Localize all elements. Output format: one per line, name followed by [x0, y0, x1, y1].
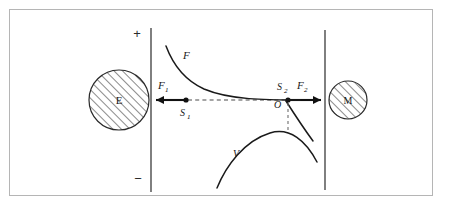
svg-text:2: 2 — [284, 87, 288, 95]
diagram-canvas: + − E M F V O F 1 — [0, 0, 452, 213]
point-s1-label: S 1 — [180, 107, 191, 121]
point-s2-label: S 2 — [277, 81, 288, 95]
point-s1-dot — [183, 97, 188, 102]
svg-text:1: 1 — [187, 113, 191, 121]
svg-text:S: S — [180, 107, 185, 118]
potential-curve — [217, 132, 317, 188]
polarity-minus-label: − — [134, 171, 142, 186]
potential-right-branch — [286, 101, 313, 141]
svg-text:1: 1 — [165, 86, 169, 94]
mass-body-label: M — [344, 95, 353, 106]
potential-curve-label: V — [233, 148, 241, 159]
origin-label: O — [274, 99, 281, 110]
svg-text:2: 2 — [304, 86, 308, 94]
figure-root: + − E M F V O F 1 — [0, 0, 452, 213]
electron-body-label: E — [116, 94, 123, 106]
force-f2-label: F 2 — [296, 79, 308, 94]
force-f1-label: F 1 — [157, 79, 169, 94]
svg-text:F: F — [296, 79, 304, 91]
force-curve-label: F — [182, 49, 190, 61]
svg-text:F: F — [157, 79, 165, 91]
polarity-plus-label: + — [133, 26, 141, 41]
svg-text:S: S — [277, 81, 282, 92]
